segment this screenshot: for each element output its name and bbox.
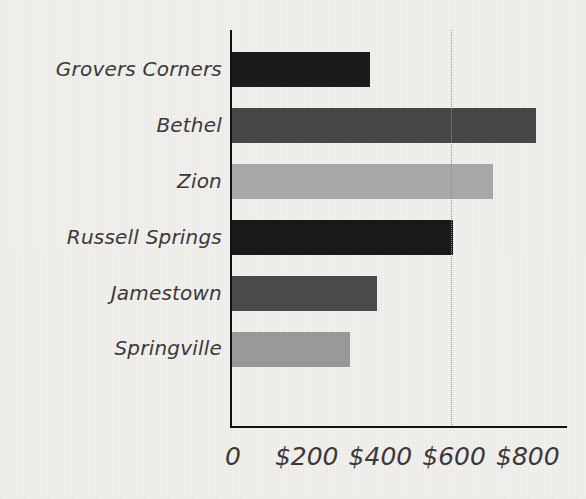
bar-bethel[interactable] (230, 108, 536, 143)
bar-zion[interactable] (230, 164, 493, 199)
category-label-grovers-corners: Grovers Corners (0, 57, 222, 81)
plot-area (230, 30, 586, 428)
category-label-zion: Zion (0, 169, 222, 193)
category-label-jamestown: Jamestown (0, 281, 222, 305)
bar-grovers-corners[interactable] (230, 52, 370, 87)
y-axis-category-labels: Grovers Corners Bethel Zion Russell Spri… (0, 0, 222, 499)
category-label-bethel: Bethel (0, 113, 222, 137)
y-axis-line (230, 30, 232, 428)
gridline-600 (451, 30, 452, 427)
bar-springville[interactable] (230, 332, 350, 367)
category-label-springville: Springville (0, 336, 222, 360)
x-tick-800: $800 (496, 442, 560, 471)
x-tick-600: $600 (422, 442, 486, 471)
x-axis-line (230, 426, 567, 428)
bar-chart: Grovers Corners Bethel Zion Russell Spri… (0, 0, 586, 499)
bar-jamestown[interactable] (230, 276, 377, 311)
bar-russell-springs[interactable] (230, 220, 453, 255)
x-tick-400: $400 (349, 442, 413, 471)
x-tick-200: $200 (275, 442, 339, 471)
x-axis-tick-labels: 0 $200 $400 $600 $800 (0, 442, 586, 482)
x-tick-0: 0 (225, 442, 241, 471)
category-label-russell-springs: Russell Springs (0, 225, 222, 249)
